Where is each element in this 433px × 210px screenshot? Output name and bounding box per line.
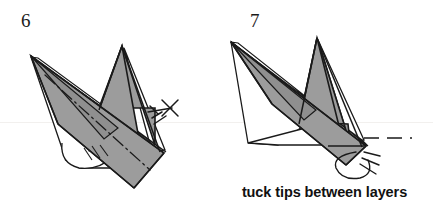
step-7-panel: 7 <box>216 0 433 210</box>
step-7-caption: tuck tips between layers <box>216 184 433 200</box>
step-7-figure <box>216 0 433 210</box>
step-6-panel: 6 <box>0 0 216 210</box>
tuck-curl-arrow <box>335 152 380 179</box>
origami-diagram-page: 6 <box>0 0 433 210</box>
step-6-figure <box>0 0 216 210</box>
